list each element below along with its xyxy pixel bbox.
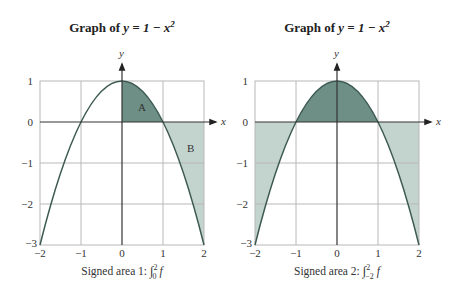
left-xtick: −2	[34, 247, 46, 259]
right-caption: Signed area 2: ∫2−2f	[294, 263, 382, 281]
right-xtick: −2	[249, 247, 261, 259]
right-x-axis-label: x	[435, 115, 441, 127]
left-chart-title: Graph of y = 1 − x2	[69, 19, 175, 35]
right-xtick: 2	[416, 247, 422, 259]
figure-canvas: Graph of y = 1 − x2 x y A B 1 0 −1 −2 −3…	[0, 0, 465, 297]
right-y-axis-label: y	[333, 47, 339, 59]
left-caption: Signed area 1: ∫20f	[81, 263, 164, 281]
region-b-fill	[163, 122, 204, 245]
region-b-label: B	[187, 142, 194, 154]
right-chart: Graph of y = 1 − x2 x y 1 0 −1 −2 −3 −2 …	[236, 19, 441, 281]
left-y-axis-label: y	[118, 47, 124, 59]
right-ytick: −2	[236, 198, 248, 210]
left-x-axis-label: x	[220, 115, 226, 127]
left-xtick: 2	[201, 247, 207, 259]
right-xtick: 1	[375, 247, 381, 259]
right-ytick: −1	[236, 157, 248, 169]
region-a-label: A	[138, 101, 146, 113]
right-neg-right-fill	[378, 122, 419, 245]
right-ytick: 0	[243, 116, 249, 128]
right-ytick: 1	[243, 75, 249, 87]
left-xtick: 0	[119, 247, 125, 259]
right-chart-title: Graph of y = 1 − x2	[284, 19, 390, 35]
left-ytick: −1	[21, 157, 33, 169]
right-xtick: 0	[334, 247, 340, 259]
right-xtick: −1	[290, 247, 302, 259]
left-ytick: 1	[28, 75, 34, 87]
right-neg-left-fill	[255, 122, 296, 245]
left-xtick: −1	[75, 247, 87, 259]
left-ytick: 0	[28, 116, 34, 128]
left-chart: Graph of y = 1 − x2 x y A B 1 0 −1 −2 −3…	[21, 19, 226, 281]
left-ytick: −2	[21, 198, 33, 210]
left-xtick: 1	[160, 247, 166, 259]
